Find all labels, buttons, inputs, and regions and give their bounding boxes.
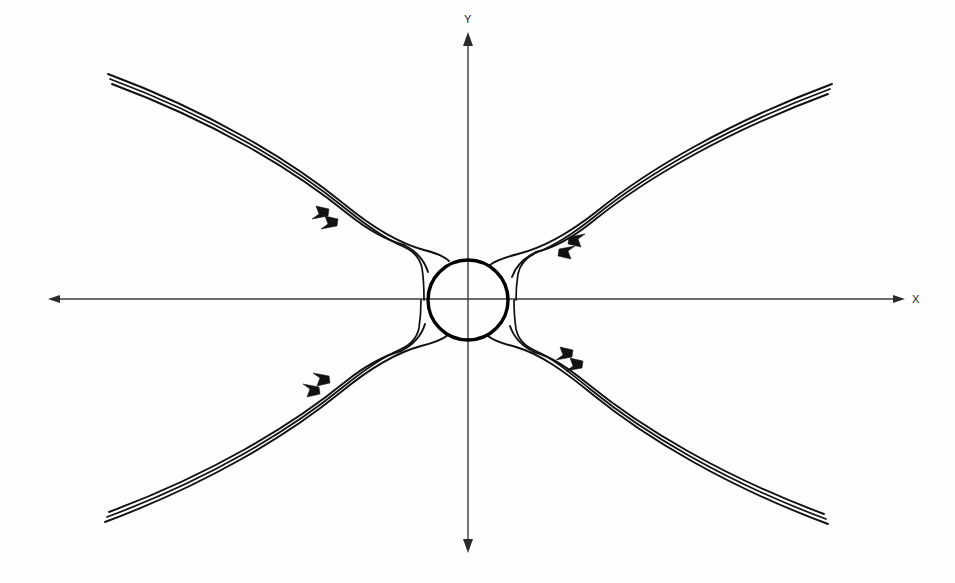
diagram-canvas: X Y [0, 0, 955, 583]
southwest-leg [105, 300, 448, 522]
x-axis-arrow-left [48, 295, 60, 303]
x-axis-label: X [912, 293, 920, 305]
y-axis-arrow-up [463, 32, 473, 46]
ne-flow-arrow-1 [568, 234, 585, 247]
southeast-leg [488, 300, 828, 524]
ne-splitter-line [516, 89, 830, 300]
roundabout-diagram: X Y [0, 0, 955, 583]
nw-splitter-line [110, 79, 424, 300]
y-axis-arrow-down [463, 539, 473, 553]
sw-flow-arrow-1 [313, 373, 330, 386]
northwest-leg [108, 74, 449, 300]
y-axis-label: Y [464, 13, 472, 25]
nw-flow-arrow-2 [321, 216, 338, 229]
se-flow-arrow-1 [566, 358, 583, 371]
sw-splitter-line [107, 300, 421, 517]
northeast-leg [490, 84, 832, 300]
ne-flow-arrow-2 [558, 246, 575, 259]
axis-group: X Y [48, 13, 920, 553]
se-inner-edge [534, 352, 824, 514]
se-splitter-line [514, 300, 826, 519]
x-axis-arrow-right [893, 295, 905, 303]
